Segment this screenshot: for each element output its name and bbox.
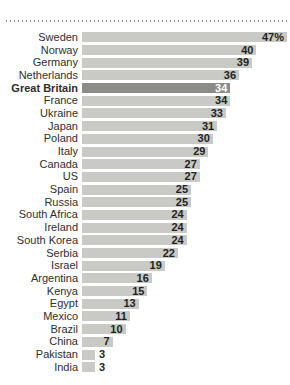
bar: 15 — [82, 286, 147, 296]
bar-track: 3 — [82, 349, 287, 360]
bar-track: 15 — [82, 286, 287, 296]
value-label: 27 — [185, 159, 200, 170]
bar-track: 40 — [82, 45, 287, 55]
value-label: 13 — [123, 298, 138, 309]
country-label: Serbia — [0, 248, 82, 259]
bar-track: 36 — [82, 70, 287, 80]
value-label: 30 — [198, 133, 213, 144]
bar: 24 — [82, 235, 187, 245]
country-label: South Africa — [0, 209, 82, 220]
value-label: 22 — [163, 248, 178, 259]
country-label: Spain — [0, 184, 82, 195]
country-label: Russia — [0, 197, 82, 208]
bar: 24 — [82, 210, 187, 220]
bar-chart: Sweden47%Norway40Germany39Netherlands36G… — [0, 31, 290, 374]
bar: 16 — [82, 273, 152, 283]
bar: 34 — [82, 96, 230, 106]
bar-chart-figure: Sweden47%Norway40Germany39Netherlands36G… — [0, 0, 290, 385]
bar-row: Netherlands36 — [0, 69, 290, 82]
bar-track: 39 — [82, 58, 287, 68]
value-label: 16 — [137, 273, 152, 284]
country-label: Kenya — [0, 286, 82, 297]
bar: 40 — [82, 45, 256, 55]
bar: 34 — [82, 83, 230, 93]
value-label: 24 — [171, 235, 186, 246]
bar-row: Brazil10 — [0, 323, 290, 336]
dotted-divider — [6, 20, 290, 22]
country-label: Brazil — [0, 324, 82, 335]
bar: 25 — [82, 197, 191, 207]
value-label: 34 — [215, 95, 230, 106]
value-label: 25 — [176, 197, 191, 208]
bar-track: 24 — [82, 223, 287, 233]
bar-row: China7 — [0, 336, 290, 349]
value-label: 25 — [176, 184, 191, 195]
bar: 11 — [82, 311, 130, 321]
bar-track: 13 — [82, 299, 287, 309]
value-label: 31 — [202, 121, 217, 132]
country-label: Great Britain — [0, 83, 82, 94]
bar: 27 — [82, 172, 200, 182]
bar-row: Sweden47% — [0, 31, 290, 44]
country-label: South Korea — [0, 235, 82, 246]
bar: 33 — [82, 108, 226, 118]
bar-track: 27 — [82, 172, 287, 182]
bar-track: 10 — [82, 324, 287, 334]
country-label: Egypt — [0, 298, 82, 309]
bar: 24 — [82, 223, 187, 233]
bar-row: Egypt13 — [0, 297, 290, 310]
bar-track: 25 — [82, 185, 287, 195]
value-label: 3 — [99, 349, 105, 360]
value-label: 47% — [262, 32, 287, 43]
value-label: 29 — [193, 146, 208, 157]
country-label: Sweden — [0, 32, 82, 43]
country-label: Ukraine — [0, 108, 82, 119]
bar-row: Spain25 — [0, 183, 290, 196]
bar-row: Poland30 — [0, 133, 290, 146]
bar: 13 — [82, 299, 139, 309]
country-label: Netherlands — [0, 70, 82, 81]
bar-row: Kenya15 — [0, 285, 290, 298]
bar: 30 — [82, 134, 213, 144]
bar — [82, 362, 95, 372]
country-label: US — [0, 171, 82, 182]
bar-track: 7 — [82, 337, 287, 347]
bar-row: Norway40 — [0, 44, 290, 57]
bar: 19 — [82, 261, 165, 271]
bar-row: France34 — [0, 94, 290, 107]
value-label: 40 — [241, 45, 256, 56]
bar-row: Italy29 — [0, 145, 290, 158]
bar-track: 3 — [82, 362, 287, 373]
bar-row: US27 — [0, 171, 290, 184]
bar-row: South Africa24 — [0, 209, 290, 222]
value-label: 10 — [110, 324, 125, 335]
bar-row: Canada27 — [0, 158, 290, 171]
value-label: 3 — [99, 362, 105, 373]
value-label: 24 — [171, 222, 186, 233]
value-label: 19 — [150, 260, 165, 271]
value-label: 15 — [132, 286, 147, 297]
bar: 22 — [82, 248, 178, 258]
value-label: 33 — [211, 108, 226, 119]
bar-track: 24 — [82, 235, 287, 245]
bar: 29 — [82, 147, 208, 157]
bar-track: 25 — [82, 197, 287, 207]
country-label: India — [0, 362, 82, 373]
bar-track: 47% — [82, 32, 287, 42]
bar-row: Japan31 — [0, 120, 290, 133]
bar-track: 27 — [82, 159, 287, 169]
bar-row: Ireland24 — [0, 221, 290, 234]
bar-track: 11 — [82, 311, 287, 321]
bar-row: Israel19 — [0, 259, 290, 272]
bar-track: 34 — [82, 83, 287, 93]
country-label: Italy — [0, 146, 82, 157]
bar-row: Mexico11 — [0, 310, 290, 323]
bar: 36 — [82, 70, 239, 80]
country-label: France — [0, 95, 82, 106]
bar-track: 19 — [82, 261, 287, 271]
country-label: Mexico — [0, 311, 82, 322]
country-label: Poland — [0, 133, 82, 144]
bar-row: Germany39 — [0, 56, 290, 69]
bar-track: 33 — [82, 108, 287, 118]
bar: 31 — [82, 121, 217, 131]
